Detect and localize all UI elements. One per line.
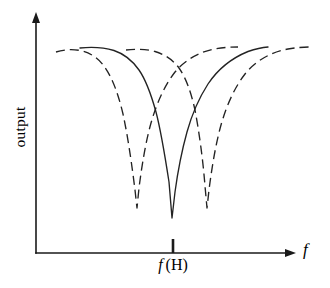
resonance-dip-plot bbox=[0, 0, 330, 288]
y-axis-label-rotator: output bbox=[11, 67, 29, 187]
x-tick-label-variable: f bbox=[158, 256, 162, 273]
left-dashed-curve bbox=[56, 47, 238, 208]
x-tick-label-fh-wrapper: f(H) bbox=[123, 256, 223, 274]
x-axis-arrow-icon bbox=[285, 249, 296, 257]
y-axis-label-wrapper: output bbox=[0, 0, 34, 288]
y-axis-label: output bbox=[11, 107, 28, 148]
x-axis-label: f bbox=[303, 240, 308, 259]
x-axis-label-wrapper: f bbox=[303, 240, 308, 260]
x-tick-label-parenthetical: (H) bbox=[166, 256, 188, 273]
figure-container: output f f(H) bbox=[0, 0, 330, 288]
